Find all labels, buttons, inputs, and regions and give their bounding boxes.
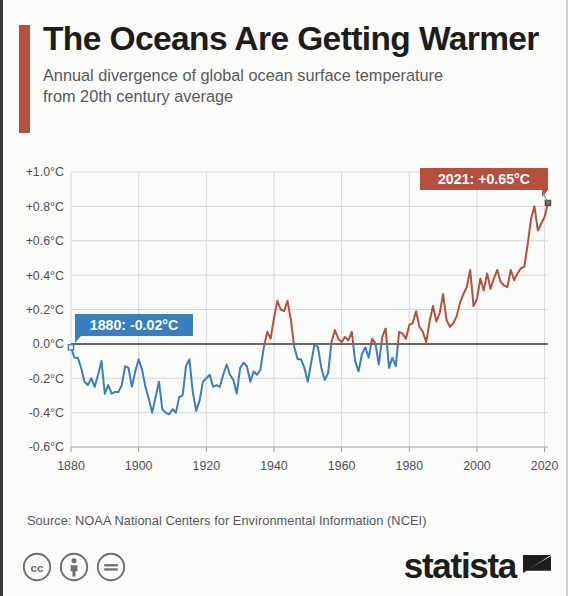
infographic-card: The Oceans Are Getting Warmer Annual div… [0, 0, 568, 596]
series-line-segment [353, 344, 371, 372]
x-axis-tick-label: 1900 [125, 459, 153, 473]
line-chart: +1.0°C+0.8°C+0.6°C+0.4°C+0.2°C0.0°C-0.2°… [3, 150, 568, 495]
start-point-marker [68, 345, 73, 350]
header-text: The Oceans Are Getting Warmer Annual div… [43, 22, 568, 106]
footer: cc statista [3, 548, 568, 596]
series-line-segment [331, 330, 353, 344]
y-axis-tick-label: +0.8°C [26, 200, 64, 214]
y-axis-tick-label: +0.6°C [26, 234, 64, 248]
cc-icon: cc [22, 552, 52, 582]
callout-label: 2021: +0.65°C [438, 171, 530, 187]
series-line-segment [265, 301, 294, 344]
y-axis-tick-label: +0.4°C [26, 269, 64, 283]
callout-end: 2021: +0.65°C [420, 168, 548, 197]
statista-wordmark: statista [404, 548, 516, 583]
y-axis-labels: +1.0°C+0.8°C+0.6°C+0.4°C+0.2°C0.0°C-0.2°… [26, 165, 64, 454]
series-line-segment [315, 344, 332, 380]
callout-label: 1880: -0.02°C [90, 317, 179, 333]
license-icons: cc [22, 552, 126, 582]
statista-logo: statista [404, 548, 553, 583]
cc-attribution-icon [59, 552, 89, 582]
grid-layer [71, 172, 548, 452]
source-note: Source: NOAA National Centers for Enviro… [27, 513, 426, 528]
series-line-segment [387, 344, 398, 368]
callout-start: 1880: -0.02°C [75, 314, 193, 343]
series-line-segment [294, 344, 315, 382]
series-line-segment [71, 344, 265, 414]
chart-container: +1.0°C+0.8°C+0.6°C+0.4°C+0.2°C0.0°C-0.2°… [3, 150, 568, 495]
series-line-segment [381, 328, 387, 343]
y-axis-tick-label: +0.2°C [26, 303, 64, 317]
x-axis-tick-label: 1960 [328, 459, 356, 473]
page-title: The Oceans Are Getting Warmer [43, 22, 568, 56]
x-axis-tick-label: 1980 [396, 459, 424, 473]
y-axis-tick-label: +1.0°C [26, 165, 64, 179]
x-axis-tick-label: 2000 [463, 459, 491, 473]
page-subtitle: Annual divergence of global ocean surfac… [43, 65, 463, 106]
y-axis-tick-label: 0.0°C [33, 337, 64, 351]
series-line-segment [371, 339, 375, 344]
x-axis-tick-label: 1880 [57, 459, 85, 473]
x-axis-tick-label: 2020 [531, 459, 559, 473]
y-axis-tick-label: -0.2°C [29, 372, 64, 386]
accent-bar [19, 25, 30, 133]
x-axis-tick-label: 1920 [193, 459, 221, 473]
y-axis-tick-label: -0.6°C [29, 440, 64, 454]
series-line-segment [375, 344, 381, 365]
x-axis-tick-label: 1940 [260, 459, 288, 473]
cc-noderivatives-icon [96, 552, 126, 582]
series-line-segment [398, 203, 548, 344]
svg-text:cc: cc [31, 562, 44, 574]
statista-mark-icon [521, 553, 553, 583]
temperature-series [68, 200, 550, 414]
x-axis-labels: 18801900192019401960198020002020 [57, 459, 558, 473]
header: The Oceans Are Getting Warmer Annual div… [3, 22, 568, 133]
y-axis-tick-label: -0.4°C [29, 406, 64, 420]
